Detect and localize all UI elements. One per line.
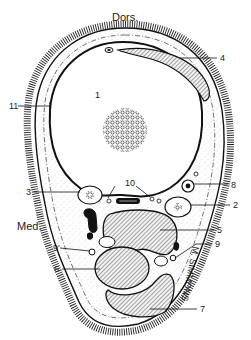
label-medial: Med. [17,220,41,232]
structure-10-band-inner [119,200,137,202]
structure-9 [170,255,176,261]
small-stipple-right [155,256,168,266]
structure-6 [95,247,149,289]
label-6: 6 [54,264,59,274]
structure-9prime [89,249,95,255]
label-10: 10 [125,178,135,188]
label-11: 11 [9,101,18,111]
small-vessel-dorsal-core [107,49,111,51]
structure-2-core [174,203,182,211]
structure-3-core [86,191,94,199]
label-8: 8 [231,180,236,190]
structure-8-core [186,184,191,189]
label-9prime: 9' [53,243,60,253]
label-dorsal: Dors. [112,11,138,23]
label-3: 3 [26,187,31,197]
central-nucleus [103,108,147,152]
label-7: 7 [200,304,205,314]
label-5: 5 [217,225,222,235]
label-4: 4 [220,53,225,63]
label-9: 9 [215,239,220,249]
label-1: 1 [95,90,100,100]
cross-section-diagram: Dors. Med. 1 2 3 4 5 6 7 8 9 9' 10 11 M.… [0,0,251,340]
label-2: 2 [233,200,238,210]
small-stipple-left [99,237,115,248]
